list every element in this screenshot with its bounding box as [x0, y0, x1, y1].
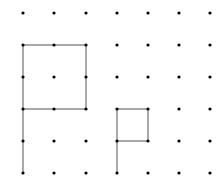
grid-dot — [208, 107, 211, 110]
grid-dot — [21, 107, 24, 110]
grid-dot — [115, 75, 118, 78]
grid-dot — [52, 171, 55, 174]
grid-dot — [21, 171, 24, 174]
grid-dot — [84, 43, 87, 46]
grid-dot — [52, 11, 55, 14]
grid-dot — [84, 107, 87, 110]
grid-dot — [208, 171, 211, 174]
grid-dot — [177, 171, 180, 174]
grid-dot — [177, 11, 180, 14]
grid-dot — [52, 75, 55, 78]
grid-dot — [177, 43, 180, 46]
grid-dot — [177, 139, 180, 142]
grid-dot — [52, 139, 55, 142]
grid-dot — [21, 11, 24, 14]
grid-dot — [84, 139, 87, 142]
grid-dot — [115, 171, 118, 174]
grid-dot — [146, 171, 149, 174]
grid-dot — [208, 11, 211, 14]
grid-dot — [52, 43, 55, 46]
grid-dot — [146, 11, 149, 14]
grid-dot — [21, 43, 24, 46]
grid-dot — [177, 107, 180, 110]
grid-dot — [115, 139, 118, 142]
grid-dot — [115, 107, 118, 110]
grid-dot — [84, 75, 87, 78]
grid-dot — [146, 107, 149, 110]
grid-dot — [21, 139, 24, 142]
grid-dot — [208, 43, 211, 46]
grid-dot — [115, 43, 118, 46]
grid-dot — [84, 171, 87, 174]
grid-dot — [146, 43, 149, 46]
grid-dot — [177, 75, 180, 78]
dot-grid-diagram — [0, 0, 223, 188]
grid-dot — [84, 11, 87, 14]
grid-dot — [208, 139, 211, 142]
grid-dot — [52, 107, 55, 110]
grid-dot — [208, 75, 211, 78]
grid-dot — [146, 75, 149, 78]
grid-dot — [146, 139, 149, 142]
grid-dot — [21, 75, 24, 78]
grid-dot — [115, 11, 118, 14]
